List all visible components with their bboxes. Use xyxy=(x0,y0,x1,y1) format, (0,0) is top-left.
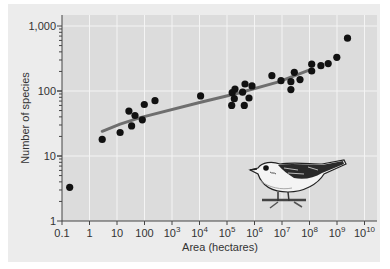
y-tick-label: 1,000 xyxy=(28,20,56,32)
data-point xyxy=(277,77,284,84)
y-tick-label: 10 xyxy=(44,150,56,162)
y-tick-label: 1 xyxy=(50,215,56,227)
data-point xyxy=(268,72,275,79)
data-point xyxy=(245,94,252,101)
x-tick-label: 107 xyxy=(274,225,291,239)
x-tick-label: 104 xyxy=(191,225,208,239)
data-point xyxy=(197,92,204,99)
data-point xyxy=(241,102,248,109)
x-tick-label: 105 xyxy=(219,225,236,239)
data-point xyxy=(333,54,340,61)
x-axis-title: Area (hectares) xyxy=(182,241,258,253)
data-point xyxy=(308,67,315,74)
y-axis: 1101001,000 xyxy=(28,15,62,227)
data-point xyxy=(141,101,148,108)
data-point xyxy=(99,136,106,143)
data-point xyxy=(151,97,158,104)
y-tick-label: 100 xyxy=(38,85,56,97)
x-tick-label: 1 xyxy=(86,227,92,239)
x-tick-label: 103 xyxy=(164,225,181,239)
data-point xyxy=(117,129,124,136)
data-point xyxy=(317,62,324,69)
data-point xyxy=(291,69,298,76)
data-point xyxy=(241,80,248,87)
x-tick-label: 108 xyxy=(301,225,318,239)
data-point xyxy=(125,108,132,115)
data-point xyxy=(248,82,255,89)
species-area-chart: 1101001,000 0.11101001031041051061071081… xyxy=(0,0,390,269)
y-axis-title: Number of species xyxy=(19,72,31,164)
data-point xyxy=(231,86,238,93)
data-point xyxy=(308,61,315,68)
x-axis: 0.11101001031041051061071081091010 xyxy=(54,221,377,239)
data-point xyxy=(131,112,138,119)
data-point xyxy=(66,184,73,191)
data-point xyxy=(287,86,294,93)
data-point xyxy=(231,95,238,102)
data-point xyxy=(239,89,246,96)
x-tick-label: 0.1 xyxy=(54,227,69,239)
data-point xyxy=(296,76,303,83)
x-tick-label: 1010 xyxy=(354,225,376,239)
data-point xyxy=(325,60,332,67)
data-point xyxy=(287,78,294,85)
data-point xyxy=(139,116,146,123)
data-point xyxy=(128,122,135,129)
x-tick-label: 109 xyxy=(329,225,346,239)
x-tick-label: 100 xyxy=(135,227,153,239)
data-point xyxy=(228,102,235,109)
x-tick-label: 10 xyxy=(111,227,123,239)
data-point xyxy=(344,35,351,42)
x-tick-label: 106 xyxy=(246,225,263,239)
plot-area xyxy=(62,15,377,221)
